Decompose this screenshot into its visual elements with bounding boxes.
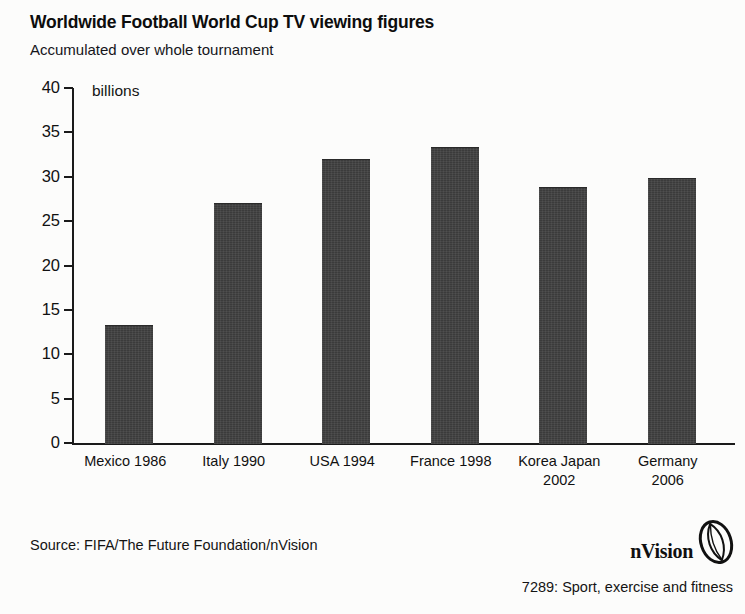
y-tick-40 [64,87,73,89]
x-label-line: 2002 [500,471,619,490]
x-label-line: 2006 [609,471,728,490]
y-tick-label-10: 10 [18,344,60,363]
y-tick-30 [64,176,73,178]
y-tick-0 [64,442,73,444]
x-label-2: USA 1994 [283,452,402,471]
x-label-line: USA 1994 [283,452,402,471]
x-axis-line [72,443,735,445]
x-label-5: Germany2006 [609,452,728,490]
source-note: Source: FIFA/The Future Foundation/nVisi… [30,537,317,553]
bar-3 [431,147,479,444]
y-tick-25 [64,220,73,222]
x-label-line: France 1998 [392,452,511,471]
unit-label: billions [92,82,139,100]
chart-page: Worldwide Football World Cup TV viewing … [0,0,745,614]
y-tick-15 [64,309,73,311]
bar-chart: 0510152025303540 Mexico 1986Italy 1990US… [0,0,745,614]
x-label-3: France 1998 [392,452,511,471]
nvision-wordmark: nVision [630,540,693,563]
nvision-oval-logo-icon [695,518,737,566]
y-tick-label-25: 25 [18,211,60,230]
bar-5 [648,178,696,444]
x-label-0: Mexico 1986 [66,452,185,471]
x-label-line: Italy 1990 [175,452,294,471]
y-tick-label-40: 40 [18,78,60,97]
y-tick-label-35: 35 [18,122,60,141]
bar-0 [105,325,153,444]
bar-1 [214,203,262,444]
y-tick-label-0: 0 [18,433,60,452]
y-tick-label-15: 15 [18,300,60,319]
x-label-line: Mexico 1986 [66,452,185,471]
bar-2 [322,159,370,444]
x-label-line: Korea Japan [500,452,619,471]
x-label-4: Korea Japan2002 [500,452,619,490]
x-label-1: Italy 1990 [175,452,294,471]
y-axis-line [72,88,74,445]
y-tick-35 [64,131,73,133]
y-tick-10 [64,353,73,355]
catalog-reference: 7289: Sport, exercise and fitness [522,579,733,595]
x-label-line: Germany [609,452,728,471]
bar-4 [539,187,587,444]
y-tick-5 [64,398,73,400]
y-tick-label-30: 30 [18,167,60,186]
y-tick-label-20: 20 [18,256,60,275]
y-tick-label-5: 5 [18,389,60,408]
y-tick-20 [64,265,73,267]
